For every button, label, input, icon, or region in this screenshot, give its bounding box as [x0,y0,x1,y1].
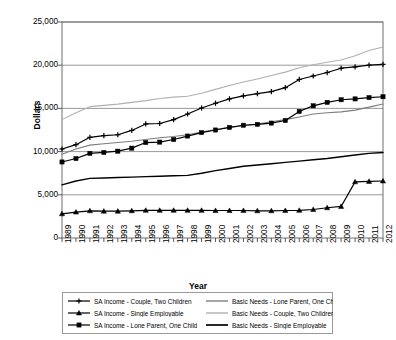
data-marker-square [353,97,357,101]
x-tick-label: 1990 [79,225,87,243]
data-marker-square [283,118,287,122]
data-marker-square [241,123,245,127]
series-line [62,152,383,184]
x-tick-label: 1993 [121,225,129,243]
data-marker-square [172,137,176,141]
data-marker-square [325,100,329,104]
legend-column-left: SA Income - Couple, Two ChildrenSA Incom… [67,295,203,331]
x-tick-label: 2005 [289,225,297,243]
data-marker-square [74,156,78,160]
x-tick-label: 1992 [107,225,115,243]
x-tick-label: 2007 [316,225,324,243]
data-marker-square [186,134,190,138]
series-1 [59,178,385,215]
legend-item[interactable]: SA Income - Single Employable [67,307,203,319]
series-line [62,181,383,214]
data-marker-square [297,109,301,113]
chart-legend: SA Income - Couple, Two ChildrenSA Incom… [62,292,333,334]
data-marker-square [339,98,343,102]
data-marker-square [311,104,315,108]
data-marker-square [269,121,273,125]
series-5 [62,152,383,184]
legend-swatch-icon [205,296,229,306]
data-marker-square [102,150,106,154]
x-tick-label: 2001 [233,225,241,243]
legend-item-label: SA Income - Couple, Two Children [94,298,192,305]
x-axis-ticks: 1989199019911992199319941995199619971998… [0,240,396,280]
legend-item[interactable]: Basic Needs - Single Employable [205,319,333,331]
x-tick-label: 2002 [247,225,255,243]
x-tick-label: 1999 [205,225,213,243]
legend-swatch-icon [67,320,91,330]
legend-swatch-icon [205,308,229,318]
data-marker-square [88,151,92,155]
data-marker-square [213,128,217,132]
x-tick-label: 2011 [372,225,380,243]
y-tick-label: 10,000 [14,148,58,156]
series-0 [59,62,385,152]
legend-item-label: Basic Needs - Lone Parent, One Child [232,298,333,305]
x-tick-label: 2006 [303,225,311,243]
x-tick-label: 2008 [330,225,338,243]
data-marker-square [60,160,64,164]
data-marker-square [255,122,259,126]
data-marker-square [116,149,120,153]
x-axis-label: Year [0,281,396,291]
x-tick-label: 2009 [344,225,352,243]
x-tick-label: 1989 [65,225,73,243]
x-tick-label: 1997 [177,225,185,243]
legend-item-label: Basic Needs - Couple, Two Children [232,310,333,317]
data-marker-square [227,125,231,129]
legend-item-label: Basic Needs - Single Employable [232,322,327,329]
legend-item-label: SA Income - Lone Parent, One Child [94,322,197,329]
plot-border [62,22,383,238]
data-marker-square [144,140,148,144]
legend-column-right: Basic Needs - Lone Parent, One ChildBasi… [205,295,333,331]
legend-swatch-icon [67,296,91,306]
data-marker-square [381,95,385,99]
y-tick-label: 20,000 [14,61,58,69]
legend-item[interactable]: SA Income - Lone Parent, One Child [67,319,203,331]
x-tick-label: 1995 [149,225,157,243]
x-tick-label: 2000 [219,225,227,243]
y-tick-label: 25,000 [14,18,58,26]
x-tick-label: 2010 [358,225,366,243]
x-tick-label: 2012 [386,225,394,243]
y-axis-ticks: 05,00010,00015,00020,00025,000 [14,0,58,240]
legend-swatch-icon [205,320,229,330]
data-marker-square [77,323,81,327]
x-tick-label: 2004 [275,225,283,243]
legend-item-label: SA Income - Single Employable [94,310,184,317]
x-tick-label: 1996 [163,225,171,243]
x-tick-label: 1991 [93,225,101,243]
x-tick-label: 2003 [261,225,269,243]
data-marker-square [199,130,203,134]
legend-swatch-icon [67,308,91,318]
y-tick-label: 5,000 [14,191,58,199]
data-marker-square [130,146,134,150]
x-tick-label: 1998 [191,225,199,243]
series-line [62,64,383,149]
data-marker-square [367,96,371,100]
data-marker-square [158,140,162,144]
y-tick-label: 15,000 [14,104,58,112]
series-line [62,97,383,162]
legend-item[interactable]: Basic Needs - Lone Parent, One Child [205,295,333,307]
chart-figure: Dollars Year 05,00010,00015,00020,00025,… [0,0,396,340]
legend-item[interactable]: Basic Needs - Couple, Two Children [205,307,333,319]
x-tick-label: 1994 [135,225,143,243]
legend-item[interactable]: SA Income - Couple, Two Children [67,295,203,307]
